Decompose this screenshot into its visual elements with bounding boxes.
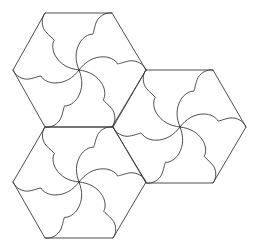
cusped-curve	[45, 182, 90, 245]
cusped-curve	[13, 182, 79, 195]
hexagon-tessellation-canvas	[0, 0, 261, 247]
cusped-curve	[146, 127, 191, 190]
cusped-curve	[135, 70, 180, 134]
cusped-curve	[68, 120, 113, 182]
hexagon-top	[13, 7, 146, 134]
hexagon-bottom-left	[13, 120, 146, 244]
cusped-curve	[113, 127, 180, 140]
cusped-curve	[79, 57, 146, 70]
cusped-curve	[180, 121, 224, 184]
hexagon-layer	[13, 7, 246, 245]
hexagon-right	[113, 64, 246, 190]
tessellation-diagram	[0, 0, 261, 247]
cusped-curve	[13, 70, 79, 83]
cusped-curve	[34, 13, 79, 77]
cusped-curve	[79, 175, 124, 238]
cusped-curve	[34, 127, 79, 189]
cusped-curve	[79, 63, 123, 127]
cusped-curve	[180, 114, 246, 127]
cusped-curve	[79, 169, 146, 182]
